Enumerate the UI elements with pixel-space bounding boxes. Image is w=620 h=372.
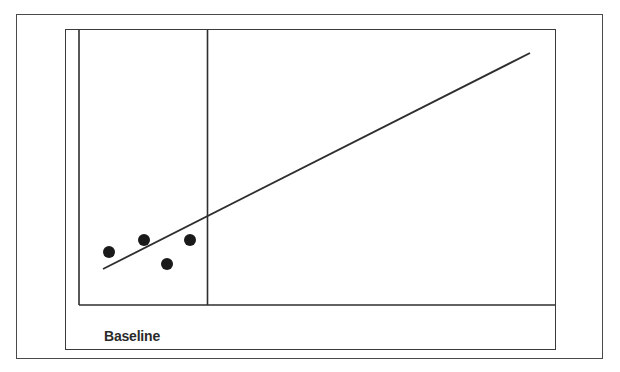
data-points — [103, 234, 196, 270]
graph — [0, 0, 620, 372]
data-point — [184, 234, 196, 246]
trend-line — [103, 53, 530, 269]
data-point — [103, 246, 115, 258]
baseline-label: Baseline — [104, 328, 160, 344]
data-point — [161, 258, 173, 270]
data-point — [138, 234, 150, 246]
